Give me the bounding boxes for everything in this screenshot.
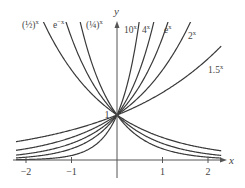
curve-label: 10x <box>124 23 138 35</box>
curve-label: (¼)x <box>86 18 103 31</box>
exponential-functions-chart: x y 1 −2−112 (½)xe−x(¼)x10x4xex2x1.5x <box>0 0 245 188</box>
curve-10-x <box>16 10 141 160</box>
curve-labels-group: (½)xe−x(¼)x10x4xex2x1.5x <box>22 18 224 75</box>
y-axis: y 1 <box>105 5 120 178</box>
curve-label: 2x <box>188 29 197 41</box>
y-axis-arrow-icon <box>115 21 120 28</box>
x-tick-label: 1 <box>160 166 165 177</box>
x-axis-label: x <box>228 154 234 166</box>
x-axis-arrow-icon <box>220 158 227 163</box>
y-axis-label: y <box>113 5 119 17</box>
curve-1-4-x <box>78 10 222 158</box>
x-tick-label: 2 <box>206 166 211 177</box>
curve-label: ex <box>164 23 172 35</box>
y-tick-label-1: 1 <box>105 109 110 120</box>
curve-label: e−x <box>53 18 65 30</box>
curve-label: (½)x <box>22 18 39 31</box>
curve-label: 1.5x <box>208 63 224 75</box>
x-tick-label: −2 <box>21 166 32 177</box>
x-tick-label: −1 <box>66 166 77 177</box>
curve-1-5-x <box>16 46 221 142</box>
x-axis: x <box>13 154 234 166</box>
curve-label: 4x <box>142 23 151 35</box>
